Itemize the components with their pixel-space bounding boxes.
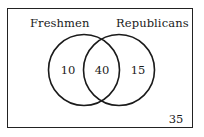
outside-count: 35 <box>169 114 184 126</box>
intersection-count: 40 <box>95 65 110 77</box>
freshmen-only-count: 10 <box>61 65 76 77</box>
republicans-only-count: 15 <box>131 65 146 77</box>
freshmen-label: Freshmen <box>30 18 90 30</box>
republicans-label: Republicans <box>116 18 189 30</box>
